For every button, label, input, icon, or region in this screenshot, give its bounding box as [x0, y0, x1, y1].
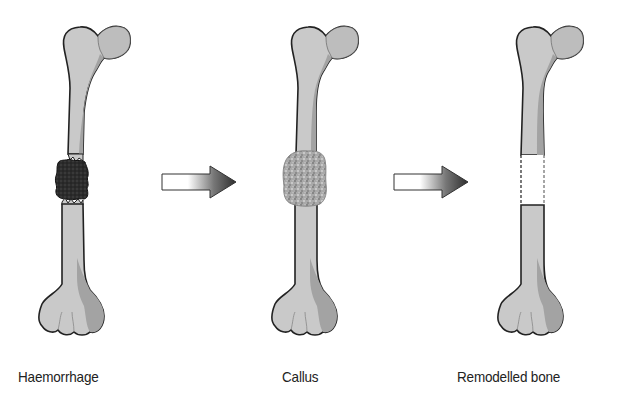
stage-label-callus: Callus — [282, 368, 318, 385]
bone-remodelled — [498, 26, 583, 335]
bone-callus — [272, 26, 358, 335]
callus-mass — [283, 151, 326, 206]
remodelled-section — [521, 155, 544, 205]
bone-haemorrhage — [39, 26, 130, 335]
stage-label-haemorrhage: Haemorrhage — [18, 368, 99, 385]
arrow-callus-to-remodelled — [394, 166, 468, 198]
fracture-healing-diagram: Haemorrhage Callus Remodelled bone — [0, 0, 624, 396]
haemorrhage-blob — [55, 159, 88, 200]
stage-label-remodelled: Remodelled bone — [457, 368, 560, 385]
arrow-haemorrhage-to-callus — [162, 166, 236, 198]
